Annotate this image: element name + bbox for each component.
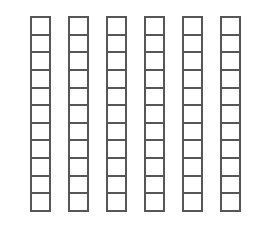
unit-cell[interactable]	[70, 106, 87, 124]
unit-cell[interactable]	[146, 159, 163, 177]
unit-rod[interactable]	[182, 16, 203, 212]
unit-cell[interactable]	[146, 53, 163, 71]
unit-cell[interactable]	[184, 141, 201, 159]
unit-cell[interactable]	[108, 36, 125, 54]
unit-rod-group	[30, 16, 241, 212]
unit-cell[interactable]	[108, 159, 125, 177]
unit-cell[interactable]	[70, 124, 87, 142]
unit-cell[interactable]	[108, 71, 125, 89]
unit-cell[interactable]	[184, 89, 201, 107]
unit-cell[interactable]	[222, 141, 239, 159]
unit-rod[interactable]	[68, 16, 89, 212]
unit-cell[interactable]	[184, 53, 201, 71]
unit-cell[interactable]	[184, 36, 201, 54]
unit-cell[interactable]	[184, 71, 201, 89]
unit-cell[interactable]	[146, 89, 163, 107]
unit-cell[interactable]	[32, 18, 49, 36]
unit-cell[interactable]	[70, 141, 87, 159]
unit-cell[interactable]	[184, 106, 201, 124]
unit-rod[interactable]	[220, 16, 241, 212]
unit-cell[interactable]	[222, 106, 239, 124]
unit-cell[interactable]	[32, 106, 49, 124]
unit-cell[interactable]	[146, 177, 163, 195]
unit-cell[interactable]	[70, 159, 87, 177]
unit-cell[interactable]	[32, 53, 49, 71]
unit-cell[interactable]	[222, 36, 239, 54]
unit-cell[interactable]	[146, 18, 163, 36]
unit-cell[interactable]	[222, 53, 239, 71]
unit-cell[interactable]	[146, 71, 163, 89]
unit-cell[interactable]	[108, 194, 125, 210]
unit-cell[interactable]	[32, 177, 49, 195]
unit-cell[interactable]	[184, 194, 201, 210]
unit-cell[interactable]	[146, 124, 163, 142]
unit-cell[interactable]	[70, 89, 87, 107]
unit-cell[interactable]	[108, 177, 125, 195]
unit-cell[interactable]	[32, 71, 49, 89]
unit-cell[interactable]	[70, 194, 87, 210]
unit-cell[interactable]	[108, 124, 125, 142]
unit-cell[interactable]	[222, 194, 239, 210]
unit-cell[interactable]	[108, 89, 125, 107]
unit-cell[interactable]	[222, 177, 239, 195]
unit-cell[interactable]	[222, 71, 239, 89]
unit-cell[interactable]	[108, 106, 125, 124]
unit-cell[interactable]	[32, 141, 49, 159]
unit-cell[interactable]	[32, 194, 49, 210]
unit-rod[interactable]	[30, 16, 51, 212]
unit-cell[interactable]	[222, 159, 239, 177]
unit-cell[interactable]	[32, 124, 49, 142]
unit-cell[interactable]	[108, 18, 125, 36]
unit-cell[interactable]	[32, 89, 49, 107]
unit-cell[interactable]	[146, 141, 163, 159]
unit-cell[interactable]	[108, 53, 125, 71]
unit-cell[interactable]	[184, 159, 201, 177]
unit-cell[interactable]	[222, 124, 239, 142]
unit-cell[interactable]	[146, 36, 163, 54]
unit-cell[interactable]	[70, 177, 87, 195]
unit-cell[interactable]	[70, 18, 87, 36]
unit-cell[interactable]	[184, 177, 201, 195]
unit-rod[interactable]	[144, 16, 165, 212]
unit-cell[interactable]	[184, 124, 201, 142]
unit-cell[interactable]	[146, 106, 163, 124]
diagram-canvas	[0, 0, 264, 229]
unit-cell[interactable]	[184, 18, 201, 36]
unit-cell[interactable]	[222, 89, 239, 107]
unit-cell[interactable]	[222, 18, 239, 36]
unit-cell[interactable]	[70, 71, 87, 89]
unit-cell[interactable]	[32, 159, 49, 177]
unit-rod[interactable]	[106, 16, 127, 212]
unit-cell[interactable]	[108, 141, 125, 159]
unit-cell[interactable]	[70, 36, 87, 54]
unit-cell[interactable]	[70, 53, 87, 71]
unit-cell[interactable]	[32, 36, 49, 54]
unit-cell[interactable]	[146, 194, 163, 210]
